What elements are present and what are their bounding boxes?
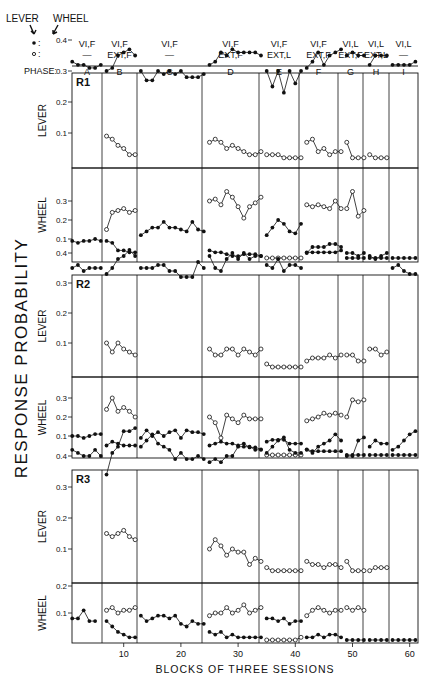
filled-data-point bbox=[76, 434, 80, 438]
open-data-point bbox=[230, 611, 234, 615]
filled-data-point bbox=[248, 445, 252, 449]
open-series-line bbox=[347, 355, 364, 361]
filled-data-point bbox=[93, 66, 97, 70]
filled-data-point bbox=[128, 47, 132, 51]
filled-data-point bbox=[219, 51, 223, 55]
legend-colon: : bbox=[38, 38, 41, 48]
filled-data-point bbox=[271, 438, 275, 442]
open-series-line bbox=[347, 400, 364, 417]
filled-data-point bbox=[356, 439, 360, 443]
phase-D: VI,FEXT,FD bbox=[218, 39, 243, 77]
filled-data-point bbox=[133, 635, 137, 639]
open-data-point bbox=[328, 563, 332, 567]
filled-data-point bbox=[322, 250, 326, 254]
open-series-line bbox=[347, 608, 364, 611]
open-data-point bbox=[373, 347, 377, 351]
filled-data-point bbox=[150, 78, 154, 82]
filled-series-line bbox=[347, 253, 364, 256]
filled-data-point bbox=[133, 250, 137, 254]
open-data-point bbox=[219, 436, 223, 440]
open-data-point bbox=[299, 156, 303, 160]
filled-data-point bbox=[87, 239, 91, 243]
filled-data-point bbox=[322, 449, 326, 453]
open-data-point bbox=[248, 205, 252, 209]
filled-data-point bbox=[351, 256, 355, 260]
open-data-point bbox=[133, 606, 137, 610]
filled-data-point bbox=[402, 63, 406, 67]
open-data-point bbox=[328, 207, 332, 211]
filled-data-point bbox=[322, 245, 326, 249]
open-data-point bbox=[351, 190, 355, 194]
y-tick-label: 0.1 bbox=[56, 339, 68, 348]
open-data-point bbox=[127, 210, 131, 214]
filled-data-point bbox=[408, 638, 412, 642]
y-tick-label: 0.1 bbox=[56, 129, 68, 138]
open-series-line bbox=[210, 192, 261, 219]
filled-data-point bbox=[110, 241, 114, 245]
open-data-point bbox=[345, 207, 349, 211]
open-data-point bbox=[213, 197, 217, 201]
open-data-point bbox=[310, 608, 314, 612]
filled-data-point bbox=[219, 460, 223, 464]
filled-data-point bbox=[122, 254, 126, 258]
filled-data-point bbox=[322, 63, 326, 67]
filled-data-point bbox=[379, 54, 383, 58]
open-data-point bbox=[288, 256, 292, 260]
filled-data-point bbox=[213, 442, 217, 446]
open-data-point bbox=[225, 347, 229, 351]
open-data-point bbox=[293, 365, 297, 369]
filled-data-point bbox=[179, 622, 183, 626]
phase-id: B bbox=[116, 67, 122, 77]
open-data-point bbox=[282, 365, 286, 369]
open-data-point bbox=[373, 156, 377, 160]
filled-data-point bbox=[242, 635, 246, 639]
filled-data-point bbox=[345, 251, 349, 255]
phase-filled-schedule: VI,L bbox=[368, 39, 384, 49]
open-data-point bbox=[345, 415, 349, 419]
phase-filled-schedule: VI,F bbox=[161, 39, 178, 49]
open-data-point bbox=[351, 353, 355, 357]
filled-data-point bbox=[351, 51, 355, 55]
filled-data-point bbox=[396, 256, 400, 260]
filled-data-point bbox=[156, 614, 160, 618]
filled-data-point bbox=[368, 453, 372, 457]
filled-data-point bbox=[333, 633, 337, 637]
open-data-point bbox=[362, 209, 366, 213]
filled-data-point bbox=[82, 454, 86, 458]
open-data-point bbox=[362, 359, 366, 363]
open-data-point bbox=[208, 547, 212, 551]
filled-data-point bbox=[362, 638, 366, 642]
filled-data-point bbox=[339, 245, 343, 249]
open-data-point bbox=[333, 199, 337, 203]
open-data-point bbox=[316, 415, 320, 419]
open-data-point bbox=[333, 150, 337, 154]
open-data-point bbox=[230, 547, 234, 551]
y-tick-label: 0.4 bbox=[56, 452, 68, 461]
open-data-point bbox=[133, 153, 137, 157]
filled-data-point bbox=[76, 63, 80, 67]
filled-data-point bbox=[230, 454, 234, 458]
open-data-point bbox=[310, 563, 314, 567]
open-data-point bbox=[288, 453, 292, 457]
filled-data-point bbox=[219, 630, 223, 634]
filled-data-point bbox=[333, 51, 337, 55]
filled-data-point bbox=[271, 445, 275, 449]
open-data-point bbox=[339, 150, 343, 154]
open-data-point bbox=[242, 550, 246, 554]
filled-data-point bbox=[414, 453, 418, 457]
open-data-point bbox=[316, 606, 320, 610]
y-tick-label: 0.2 bbox=[56, 98, 68, 107]
open-data-point bbox=[213, 611, 217, 615]
filled-data-point bbox=[122, 633, 126, 637]
open-data-point bbox=[299, 365, 303, 369]
filled-data-point bbox=[333, 242, 337, 246]
subject-label: R2 bbox=[76, 278, 90, 290]
filled-data-point bbox=[288, 448, 292, 452]
phase-A: VI,F—A bbox=[79, 39, 96, 77]
y-tick-label: 0.2 bbox=[56, 309, 68, 318]
filled-data-point bbox=[351, 454, 355, 458]
open-data-point bbox=[248, 611, 252, 615]
open-data-point bbox=[248, 153, 252, 157]
filled-data-point bbox=[276, 218, 280, 222]
filled-data-point bbox=[133, 426, 137, 430]
